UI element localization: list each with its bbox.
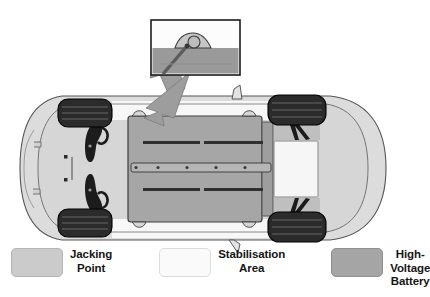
- legend-swatch-jacking-point: [11, 248, 63, 277]
- battery-seam-upper-left: [143, 141, 200, 144]
- front-left-wheel: [58, 99, 112, 127]
- battery-seam-upper-right: [204, 141, 263, 144]
- floor-marker-upper: [64, 155, 68, 159]
- upper-mirror-fin: [232, 85, 242, 99]
- battery-cross-member: [131, 163, 271, 172]
- battery-bolt: [243, 166, 246, 169]
- jacking-point-detail-inset: [151, 20, 240, 75]
- legend-swatch-high-voltage-battery: [331, 248, 383, 277]
- legend-item-stabilisation-area: Stabilisation Area: [159, 247, 285, 277]
- front-right-wheel: [268, 95, 326, 125]
- suspension-bolt: [88, 188, 91, 191]
- bumper-notch-upper: [34, 142, 41, 147]
- high-voltage-battery-pack: [128, 116, 273, 222]
- suspension-bolt: [88, 144, 91, 147]
- battery-seam-lower-left: [143, 188, 200, 191]
- battery-bolt: [134, 166, 137, 169]
- battery-bolt: [185, 166, 188, 169]
- rear-right-wheel: [268, 212, 326, 242]
- stabilisation-area-region: [274, 117, 320, 221]
- battery-bolt: [214, 166, 217, 169]
- diagram-legend: Jacking Point Stabilisation Area High-Vo…: [0, 247, 411, 289]
- legend-item-jacking-point: Jacking Point: [11, 247, 112, 277]
- legend-label-jacking-point: Jacking Point: [70, 247, 112, 275]
- battery-seam-lower-right: [204, 188, 263, 191]
- battery-bolt: [156, 166, 159, 169]
- stabilisation-area-rear: [274, 141, 318, 197]
- legend-label-stabilisation-area: Stabilisation Area: [218, 247, 285, 275]
- rear-left-wheel: [58, 209, 112, 237]
- inset-jack-pin: [185, 44, 190, 49]
- legend-swatch-stabilisation-area: [159, 248, 211, 277]
- bumper-notch-lower: [33, 189, 40, 194]
- inset-lug-hole: [188, 36, 200, 48]
- floor-marker-lower: [64, 178, 68, 182]
- legend-label-high-voltage-battery: High-Voltage Battery: [390, 247, 430, 289]
- legend-item-high-voltage-battery: High-Voltage Battery: [331, 247, 430, 289]
